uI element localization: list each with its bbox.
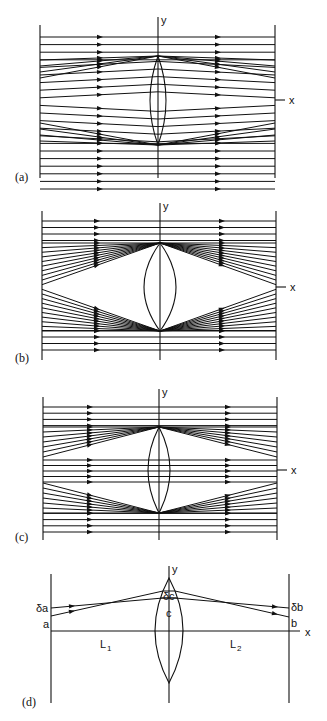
arrowhead-icon [97, 172, 103, 176]
arrowhead-icon [97, 93, 103, 97]
arrowhead-icon [219, 348, 225, 352]
arrowhead-icon [97, 121, 103, 125]
ray-segment [42, 289, 160, 331]
y-axis-label: y [172, 563, 178, 575]
arrowhead-icon [94, 225, 100, 229]
arrowhead-icon [219, 232, 225, 236]
arrowhead-icon [219, 341, 225, 345]
arrowhead-icon [97, 35, 103, 39]
arrowhead-icon [215, 106, 221, 110]
arrowhead-icon [215, 149, 221, 153]
arrowhead-icon [225, 411, 231, 415]
arrowhead-icon [87, 492, 93, 496]
c-label: c [166, 607, 172, 619]
arrowhead-icon [215, 164, 221, 168]
delta-c-label: δc [163, 590, 175, 602]
arrowhead-icon [87, 405, 93, 409]
arrowhead-icon [87, 517, 93, 521]
arrowhead-icon [94, 348, 100, 352]
ray-segment [42, 243, 160, 285]
arrowhead-icon [97, 78, 103, 82]
arrowhead-icon [215, 172, 221, 176]
arrowhead-icon [225, 469, 231, 473]
arrowhead-icon [87, 480, 93, 484]
arrowhead-icon [215, 85, 221, 89]
arrowhead-icon [225, 474, 231, 478]
arrowhead-icon [215, 156, 221, 160]
arrowhead-icon [87, 524, 93, 528]
arrowhead-icon [215, 50, 221, 54]
arrowhead-icon [219, 335, 225, 339]
arrowhead-icon [225, 405, 231, 409]
ray-segment [160, 243, 276, 285]
delta-b-label: δb [291, 601, 303, 613]
ray-segment [42, 294, 160, 331]
L1-label: L [100, 638, 106, 650]
arrowhead-icon [97, 114, 103, 118]
arrowhead-icon [94, 341, 100, 345]
arrowhead-icon [97, 179, 103, 183]
ray-segment [160, 243, 276, 280]
arrowhead-icon [93, 306, 99, 310]
arrowhead-icon [94, 232, 100, 236]
arrowhead-icon [215, 77, 221, 81]
arrowhead-icon [97, 65, 103, 69]
arrowhead-icon [215, 42, 221, 46]
arrowhead-icon [97, 156, 103, 160]
panel-b: yx [42, 200, 296, 360]
arrowhead-icon [93, 264, 99, 268]
x-axis-label: x [291, 464, 297, 476]
arrowhead-icon [215, 179, 221, 183]
arrowhead-icon [219, 225, 225, 229]
arrowhead-icon [87, 474, 93, 478]
y-axis-label: y [162, 386, 168, 398]
arrowhead-icon [97, 42, 103, 46]
arrowhead-icon [97, 70, 103, 74]
x-axis-label: x [289, 94, 295, 106]
panel-label-d: (d) [22, 695, 36, 709]
arrowhead-icon [219, 219, 225, 223]
arrowhead-icon [215, 93, 221, 97]
arrowhead-icon [94, 335, 100, 339]
a-label: a [43, 618, 50, 630]
arrowhead-icon [97, 106, 103, 110]
arrowhead-icon [87, 443, 93, 447]
ray-segment [160, 294, 276, 331]
delta-a-label: δa [36, 602, 49, 614]
arrowhead-icon [87, 411, 93, 415]
arrowhead-icon [215, 70, 221, 74]
lens-ray-diagram: yxyxyx yxδaaδccδbbL1L2 (a)(b)(c)(d) [0, 0, 327, 721]
panel-c: yx [43, 386, 297, 540]
x-axis-label: x [305, 626, 311, 638]
ray-segment [175, 598, 289, 608]
L2-label: L [230, 638, 236, 650]
panel-d-geometry: yxδaaδccδbbL1L2 [36, 563, 311, 703]
ray-panels-abc: yxyxyx [40, 14, 297, 540]
panel-label-a: (a) [15, 170, 28, 184]
arrowhead-icon [215, 121, 221, 125]
panel-a: yx [40, 14, 295, 191]
arrowhead-icon [215, 187, 221, 191]
arrowhead-icon [87, 530, 93, 534]
arrowhead-icon [215, 114, 221, 118]
arrowhead-icon [225, 458, 231, 462]
arrowhead-icon [87, 463, 93, 467]
arrowhead-icon [87, 417, 93, 421]
arrowhead-icon [97, 85, 103, 89]
arrowhead-icon [215, 35, 221, 39]
arrowhead-icon [225, 417, 231, 421]
y-axis-label: y [161, 14, 167, 26]
arrowhead-icon [97, 50, 103, 54]
ray-segment [160, 289, 276, 331]
panel-label-b: (b) [15, 351, 29, 365]
ray-segment [175, 591, 289, 617]
arrowhead-icon [97, 164, 103, 168]
panel-labels: (a)(b)(c)(d) [15, 170, 36, 709]
arrowhead-icon [225, 463, 231, 467]
ray-segment [42, 243, 160, 280]
arrowhead-icon [97, 187, 103, 191]
arrowhead-icon [225, 480, 231, 484]
arrowhead-icon [87, 469, 93, 473]
arrowhead-icon [97, 149, 103, 153]
L1-subscript: 1 [107, 644, 112, 653]
